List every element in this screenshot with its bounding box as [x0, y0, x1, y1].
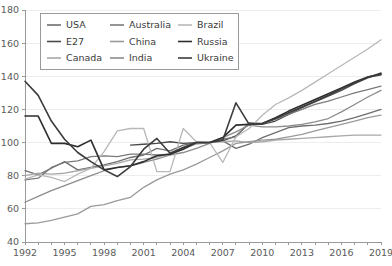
legend-label: E27 — [66, 36, 84, 47]
x-tick-label: 2016 — [329, 247, 353, 258]
y-tick-label: 160 — [1, 38, 19, 49]
y-tick-label: 100 — [1, 137, 19, 148]
legend-label: Canada — [66, 52, 102, 63]
x-tick-label: 2019 — [369, 247, 392, 258]
y-tick-label: 40 — [7, 236, 19, 247]
y-tick-label: 120 — [1, 104, 19, 115]
legend-label: USA — [66, 19, 86, 30]
chart-canvas: 406080100120140160180 199219951998200120… — [0, 0, 392, 266]
x-tick-label: 1995 — [52, 247, 76, 258]
y-tick-label: 140 — [1, 71, 19, 82]
series-line-russia — [25, 74, 381, 170]
line-chart-figure: 406080100120140160180 199219951998200120… — [0, 0, 392, 266]
legend-label: Ukraine — [197, 52, 234, 63]
y-tick-label: 80 — [7, 170, 19, 181]
x-tick-label: 2013 — [290, 247, 314, 258]
legend-label: Brazil — [197, 19, 224, 30]
legend-label: Australia — [129, 19, 171, 30]
x-tick-label: 1998 — [92, 247, 116, 258]
y-tick-labels: 406080100120140160180 — [1, 4, 19, 247]
chart-legend: USAAustraliaBrazilE27ChinaRussiaCanadaIn… — [40, 13, 238, 69]
x-tick-label: 1992 — [13, 247, 37, 258]
series-line-australia — [25, 86, 381, 180]
x-tick-labels: 1992199519982001200420072010201320162019 — [13, 247, 392, 258]
y-tick-label: 60 — [7, 203, 19, 214]
legend-label: India — [129, 52, 152, 63]
legend-label: Russia — [197, 36, 228, 47]
legend-label: China — [129, 36, 156, 47]
x-tick-label: 2007 — [211, 247, 235, 258]
y-tick-label: 180 — [1, 4, 19, 15]
x-tick-label: 2010 — [250, 247, 274, 258]
x-tick-label: 2004 — [171, 247, 195, 258]
x-tick-label: 2001 — [132, 247, 156, 258]
